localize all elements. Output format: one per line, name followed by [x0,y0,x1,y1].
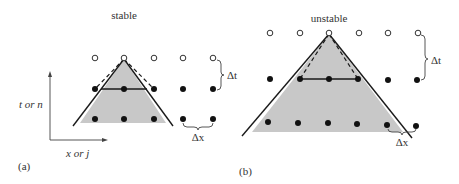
panel-a-title: stable [111,9,137,21]
panel-b-dt-label: Δt [431,54,441,66]
panel-a-dx-label: Δx [192,131,205,143]
courant-stability-diagram: stable [0,0,459,184]
panel-b-dx-label: Δx [396,136,409,148]
y-axis-label: t or n [19,98,43,110]
open-grid-points [92,55,216,61]
dependence-triangle [252,34,403,132]
panel-a-label: (a) [18,160,31,173]
open-grid-points [267,30,421,36]
dt-brace-icon [217,60,224,90]
dt-brace-icon [421,35,428,80]
panel-b-label: (b) [239,165,252,178]
panel-b: unstable [239,12,441,178]
y-axis-arrow-icon [48,71,52,77]
panel-a-dt-label: Δt [227,69,237,81]
panel-b-title: unstable [311,12,348,24]
x-axis-arrow-icon [102,138,108,142]
panel-a: stable [18,9,237,173]
x-axis-label: x or j [65,147,89,159]
dx-brace-icon [183,123,213,130]
